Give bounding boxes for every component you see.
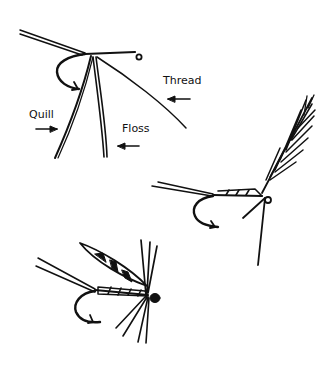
figure-materials-tied-in bbox=[20, 30, 190, 158]
hook-eye-icon bbox=[265, 197, 271, 203]
label-floss: Floss bbox=[122, 122, 150, 135]
figure-wet-fly bbox=[36, 240, 160, 343]
fly-head-icon bbox=[150, 294, 160, 303]
hook-eye-icon bbox=[136, 54, 141, 59]
label-quill: Quill bbox=[29, 108, 54, 121]
figure-dry-fly bbox=[152, 95, 315, 265]
fly-tying-diagram: Thread Quill Floss bbox=[0, 0, 336, 367]
label-thread: Thread bbox=[162, 74, 201, 87]
